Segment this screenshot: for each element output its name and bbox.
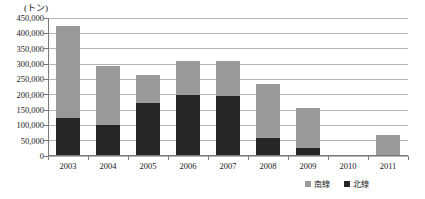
chart-container: (トン) 050,000100,000150,000200,000250,000… (0, 0, 425, 199)
y-tick-mark (44, 18, 48, 19)
bar-column (376, 135, 400, 156)
y-tick-label: 150,000 (0, 105, 44, 115)
bar-segment-south (136, 75, 160, 104)
y-tick-label: 200,000 (0, 90, 44, 100)
y-tick-label: 50,000 (0, 136, 44, 146)
bar-segment-south (176, 61, 200, 95)
y-tick-mark (44, 140, 48, 141)
x-tick-mark (88, 156, 89, 160)
bar-segment-south (56, 26, 80, 118)
bar-segment-north (96, 125, 120, 156)
bar-segment-north (136, 103, 160, 156)
x-tick-mark (288, 156, 289, 160)
bar-column (96, 66, 120, 156)
y-tick-label: 350,000 (0, 44, 44, 54)
x-tick-mark (48, 156, 49, 160)
bar-column (216, 61, 240, 156)
y-tick-label: 400,000 (0, 28, 44, 38)
bar-segment-south (296, 108, 320, 148)
x-tick-mark (168, 156, 169, 160)
y-tick-mark (44, 33, 48, 34)
y-tick-label: 250,000 (0, 74, 44, 84)
bar-column (136, 75, 160, 156)
y-tick-label: 300,000 (0, 59, 44, 69)
y-tick-mark (44, 48, 48, 49)
legend-swatch-icon (344, 181, 350, 187)
legend-label: 北線 (353, 178, 369, 189)
gridline (48, 33, 408, 34)
legend-label: 南線 (314, 178, 330, 189)
gridline (48, 18, 408, 19)
x-tick-mark (408, 156, 409, 160)
legend-swatch-icon (305, 181, 311, 187)
x-tick-mark (128, 156, 129, 160)
plot-area (48, 18, 408, 156)
bar-column (176, 61, 200, 156)
bar-column (56, 26, 80, 156)
bar-segment-south (376, 135, 400, 156)
bar-segment-north (176, 95, 200, 156)
y-tick-mark (44, 94, 48, 95)
x-tick-mark (208, 156, 209, 160)
bar-segment-north (256, 138, 280, 156)
bar-segment-south (216, 61, 240, 96)
y-tick-mark (44, 125, 48, 126)
x-tick-label-2011: 2011 (363, 161, 413, 171)
y-tick-mark (44, 64, 48, 65)
y-tick-label: 0 (0, 151, 44, 161)
bar-segment-south (96, 66, 120, 126)
chart-legend: 南線北線 (305, 178, 369, 189)
y-tick-mark (44, 110, 48, 111)
x-tick-mark (328, 156, 329, 160)
y-tick-label: 100,000 (0, 120, 44, 130)
y-tick-mark (44, 79, 48, 80)
x-axis-line (48, 155, 408, 156)
x-tick-mark (248, 156, 249, 160)
bar-column (296, 108, 320, 156)
legend-item[interactable]: 南線 (305, 178, 330, 189)
bar-segment-north (56, 118, 80, 156)
y-axis-line (48, 18, 49, 156)
bar-segment-south (256, 84, 280, 138)
y-tick-label: 450,000 (0, 13, 44, 23)
bar-column (256, 84, 280, 156)
legend-item[interactable]: 北線 (344, 178, 369, 189)
x-tick-mark (368, 156, 369, 160)
bar-segment-north (216, 96, 240, 156)
gridline (48, 48, 408, 49)
